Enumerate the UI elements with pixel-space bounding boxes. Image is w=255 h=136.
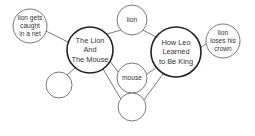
topic-left-line-1: The Lion: [72, 36, 109, 45]
bubble-left-detail-2-empty: [46, 72, 72, 98]
topic-left-line-3: The Mouse: [72, 55, 109, 64]
right-detail-1-line-3: crown: [210, 45, 236, 53]
shared-1-line-1: lion: [127, 16, 137, 24]
right-detail-1-line-1: lion: [210, 29, 236, 37]
topic-right-label: How Leo Learned to Be King: [151, 27, 201, 77]
right-detail-1-line-2: loses his: [210, 37, 236, 45]
topic-left-line-2: And: [72, 45, 109, 54]
edge-left-topic-to-net: [46, 31, 68, 42]
left-detail-1-label: lion gets caught in a net: [13, 9, 47, 43]
topic-right-line-2: Learned: [159, 47, 193, 56]
topic-right-line-3: to Be King: [159, 57, 193, 66]
bubble-shared-3-empty: [118, 93, 146, 121]
topic-right-line-1: How Leo: [159, 38, 193, 47]
right-detail-1-label: lion loses his crown: [206, 24, 240, 58]
shared-2-line-1: mouse: [122, 74, 142, 82]
shared-2-label: mouse: [117, 63, 147, 93]
topic-left-label: The Lion And The Mouse: [67, 27, 113, 73]
left-detail-1-line-2: caught: [18, 22, 43, 30]
shared-1-label: lion: [117, 5, 147, 35]
left-detail-1-line-3: in a net: [18, 30, 43, 38]
left-detail-1-line-1: lion gets: [18, 14, 43, 22]
